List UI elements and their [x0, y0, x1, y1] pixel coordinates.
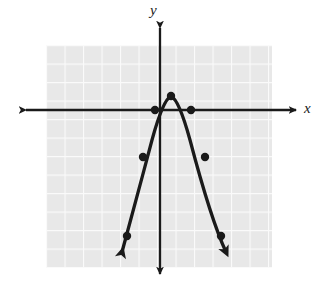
plot-point	[151, 106, 159, 114]
plot-point	[217, 232, 225, 240]
plot-point	[123, 232, 131, 240]
plot-point	[167, 92, 175, 100]
plot-point	[187, 106, 195, 114]
plot-point	[139, 153, 147, 161]
x-axis-label: x	[304, 101, 311, 116]
plot-point	[201, 153, 209, 161]
coordinate-plane-svg	[0, 0, 322, 284]
parabola-figure: y x	[0, 0, 322, 284]
y-axis-label: y	[150, 3, 157, 18]
